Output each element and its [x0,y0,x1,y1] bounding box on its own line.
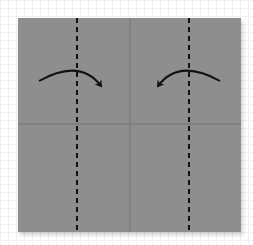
fold-diagram [0,0,253,245]
fold-arrow-right-icon [39,71,101,86]
